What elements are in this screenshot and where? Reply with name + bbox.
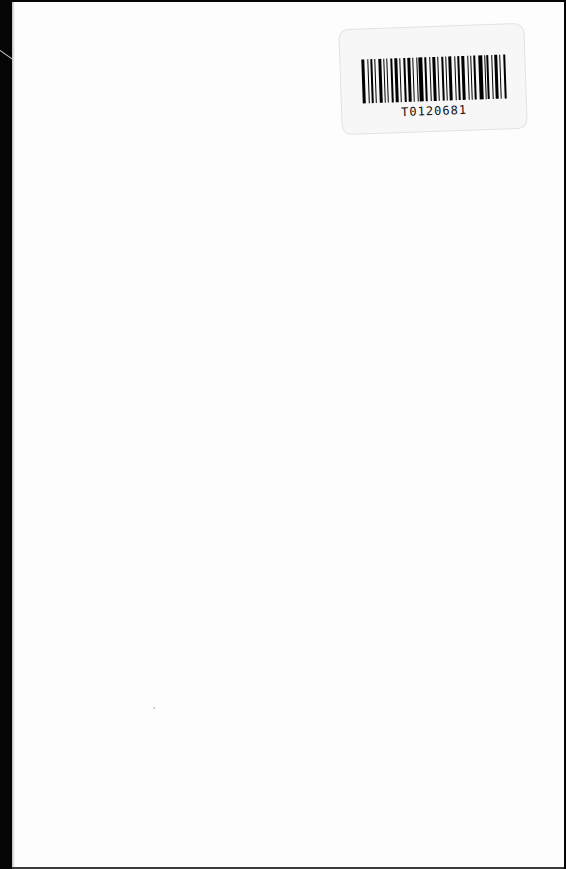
barcode-bar [437,57,439,101]
barcode-bar [361,59,365,103]
barcode-bar [432,57,436,101]
barcode-sticker: T0120681 [338,23,528,135]
barcode-bar [419,57,424,101]
barcode-bar [424,57,427,101]
barcode-bar [416,58,418,102]
barcode-bar [384,59,386,103]
barcode-bar [374,59,376,103]
barcode-bar [399,58,401,102]
barcode-icon [361,54,508,103]
barcode-bar [487,55,490,99]
barcode-bar [412,58,414,102]
barcode-bar [445,57,447,101]
barcode-bar [458,56,461,100]
barcode-bar [448,56,453,100]
barcode-bar [378,59,383,103]
barcode-bar [441,57,444,101]
barcode-bar [387,59,389,103]
barcode-bar [467,56,469,100]
page-edge-shadow [12,2,15,867]
barcode-bar [394,58,398,102]
barcode-bar [455,56,457,100]
barcode-bar [470,56,472,100]
barcode-bar [478,55,483,99]
barcode-bar [370,59,373,103]
barcode-bar [429,57,431,101]
barcode-bar [473,56,476,100]
barcode-number: T0120681 [342,101,526,121]
barcode-bar [407,58,411,102]
barcode-bar [390,58,393,102]
barcode-bar [484,55,486,99]
scan-speck [153,707,155,709]
scanned-page: T0120681 [12,2,564,869]
barcode-bar [461,56,465,100]
barcode-bar [494,55,498,99]
barcode-bar [492,55,494,99]
barcode-bar [367,59,369,103]
barcode-bar [403,58,406,102]
barcode-bar [503,54,506,98]
barcode-bar [499,55,501,99]
